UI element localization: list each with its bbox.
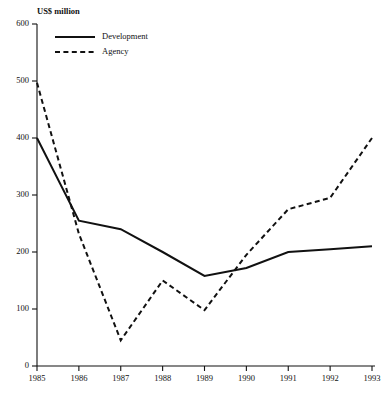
y-axis-title: US$ million [37, 6, 80, 16]
series-line-agency [37, 83, 372, 341]
x-tick-label: 1987 [112, 373, 129, 383]
y-axis-ticks: 0100200300400500600 [16, 18, 37, 370]
y-tick-label: 100 [16, 303, 29, 313]
x-tick-label: 1985 [29, 373, 46, 383]
series-group [37, 83, 372, 341]
x-tick-label: 1992 [322, 373, 339, 383]
chart-container: US$ million 0100200300400500600 19851986… [0, 0, 388, 398]
y-tick-label: 300 [16, 189, 29, 199]
x-tick-label: 1986 [70, 373, 87, 383]
legend-label-development: Development [102, 31, 148, 41]
chart-legend: DevelopmentAgency [55, 31, 148, 56]
y-tick-label: 500 [16, 75, 29, 85]
x-tick-label: 1989 [196, 373, 213, 383]
y-tick-label: 600 [16, 18, 29, 28]
y-tick-label: 200 [16, 246, 29, 256]
x-tick-label: 1988 [154, 373, 171, 383]
axis-title-group: US$ million [37, 6, 80, 16]
legend-label-agency: Agency [102, 46, 129, 56]
y-tick-label: 0 [25, 360, 29, 370]
y-tick-label: 400 [16, 132, 29, 142]
x-tick-label: 1991 [280, 373, 297, 383]
x-tick-label: 1993 [364, 373, 381, 383]
x-tick-label: 1990 [238, 373, 255, 383]
line-chart: US$ million 0100200300400500600 19851986… [0, 0, 388, 398]
x-axis-ticks: 198519861987198819891990199119921993 [29, 366, 381, 383]
